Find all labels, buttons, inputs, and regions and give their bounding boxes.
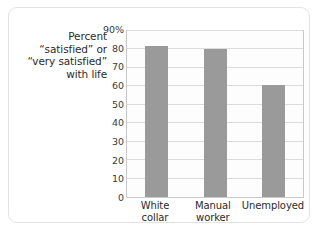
y-axis-tick-40: 40 xyxy=(93,119,124,129)
plot-area xyxy=(126,30,304,198)
x-axis-label-manual-worker: Manualworker xyxy=(184,200,242,224)
y-axis-tick-0: 0 xyxy=(93,193,124,203)
x-axis-label-line: worker xyxy=(184,212,242,224)
bar-unemployed[interactable] xyxy=(262,85,285,198)
bar-white-collar[interactable] xyxy=(145,46,168,197)
bar-series xyxy=(127,31,303,197)
y-axis-tick-labels: 90%80706050403020100 xyxy=(93,22,124,198)
x-axis-label-line: Manual xyxy=(184,200,242,212)
figure-card: Percent “satisfied” or “very satisfied” … xyxy=(8,7,310,223)
y-axis-tick-90: 90% xyxy=(93,25,124,35)
bar-slot xyxy=(244,31,303,197)
y-axis-tick-50: 50 xyxy=(93,100,124,110)
bar-slot xyxy=(186,31,245,197)
x-axis-label-white-collar: White collar xyxy=(126,200,184,224)
x-axis-label-line: Unemployed xyxy=(242,200,304,212)
y-axis-tick-70: 70 xyxy=(93,63,124,73)
y-axis-tick-10: 10 xyxy=(93,175,124,185)
x-axis-label-unemployed: Unemployed xyxy=(242,200,304,224)
y-axis-tick-60: 60 xyxy=(93,81,124,91)
y-axis-tick-20: 20 xyxy=(93,156,124,166)
y-axis-tick-30: 30 xyxy=(93,137,124,147)
x-axis-label-line: White collar xyxy=(126,200,184,224)
y-axis-tick-80: 80 xyxy=(93,44,124,54)
bar-manual-worker[interactable] xyxy=(204,49,227,197)
plot-wrapper: 90%80706050403020100 White collarManualw… xyxy=(126,22,304,212)
x-axis-tick-labels: White collarManualworkerUnemployed xyxy=(126,200,304,224)
bar-slot xyxy=(127,31,186,197)
